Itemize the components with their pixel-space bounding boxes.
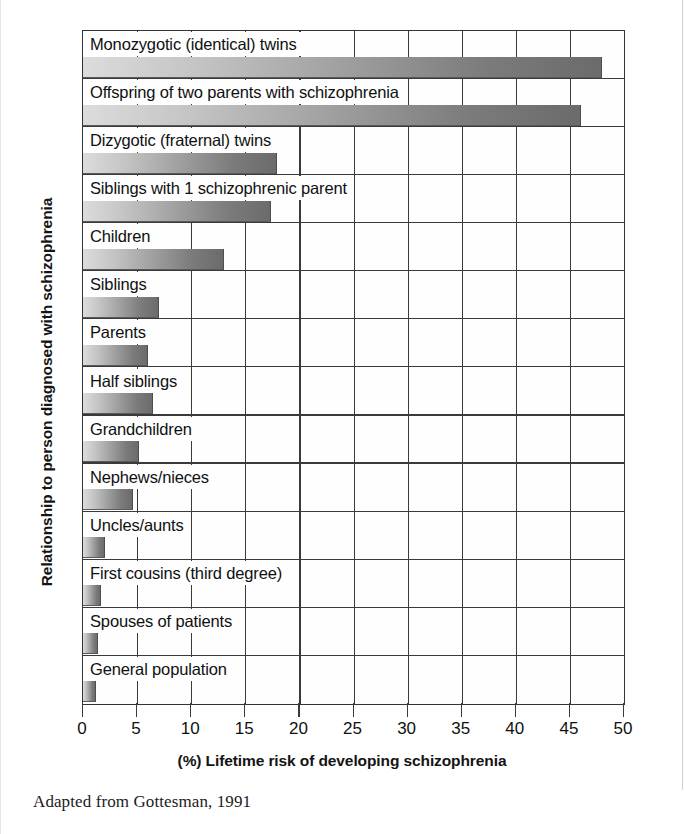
row-separator — [83, 462, 624, 463]
bar-row: Grandchildren — [83, 416, 624, 464]
category-label: Half siblings — [90, 369, 177, 394]
bar — [83, 681, 96, 702]
x-tick-mark — [353, 703, 354, 717]
x-axis: 05101520253035404550 — [82, 703, 623, 753]
category-label: Siblings with 1 schizophrenic parent — [90, 176, 347, 201]
row-separator — [83, 607, 624, 608]
row-separator — [83, 126, 624, 127]
row-separator — [83, 559, 624, 560]
x-tick-label: 25 — [333, 719, 373, 739]
y-axis-title: Relationship to person diagnosed with sc… — [38, 92, 56, 692]
bar — [83, 297, 159, 318]
x-tick-mark — [461, 703, 462, 717]
row-separator — [83, 414, 624, 415]
x-tick-label: 40 — [495, 719, 535, 739]
category-label: Children — [90, 224, 150, 249]
bar — [83, 585, 101, 606]
category-label: Uncles/aunts — [90, 513, 184, 538]
x-tick-mark — [407, 703, 408, 717]
x-axis-title: (%) Lifetime risk of developing schizoph… — [0, 752, 684, 770]
row-separator — [83, 174, 624, 175]
x-tick-label: 30 — [387, 719, 427, 739]
bar-row: General population — [83, 656, 624, 704]
bar — [83, 345, 148, 366]
row-separator — [83, 78, 624, 79]
bar-row: Siblings — [83, 271, 624, 319]
x-tick-mark — [82, 703, 83, 717]
x-tick-label: 20 — [278, 719, 318, 739]
category-label: Nephews/nieces — [90, 465, 209, 490]
bar-row: Spouses of patients — [83, 608, 624, 656]
bar-row: Half siblings — [83, 368, 624, 416]
bar — [83, 441, 139, 462]
bar-row: Nephews/nieces — [83, 464, 624, 512]
bar — [83, 57, 602, 78]
bar — [83, 633, 98, 654]
bar-row: Offspring of two parents with schizophre… — [83, 79, 624, 127]
x-tick-mark — [623, 703, 624, 717]
category-label: Monozygotic (identical) twins — [90, 32, 297, 57]
x-tick-label: 10 — [170, 719, 210, 739]
bar — [83, 393, 153, 414]
category-label: Dizygotic (fraternal) twins — [90, 128, 271, 153]
x-tick-mark — [190, 703, 191, 717]
row-separator — [83, 222, 624, 223]
x-tick-mark — [136, 703, 137, 717]
plot-area: Monozygotic (identical) twinsOffspring o… — [82, 30, 625, 705]
x-tick-mark — [515, 703, 516, 717]
bar-rows: Monozygotic (identical) twinsOffspring o… — [83, 31, 624, 704]
bar — [83, 489, 133, 510]
x-tick-label: 15 — [224, 719, 264, 739]
bar-row: Siblings with 1 schizophrenic parent — [83, 175, 624, 223]
bar-row: Uncles/aunts — [83, 512, 624, 560]
bar — [83, 201, 271, 222]
row-separator — [83, 655, 624, 656]
bar — [83, 537, 105, 558]
bar-chart-figure: Relationship to person diagnosed with sc… — [0, 0, 684, 834]
bar — [83, 153, 277, 174]
x-tick-mark — [298, 703, 299, 717]
category-label: Parents — [90, 320, 146, 345]
x-tick-mark — [569, 703, 570, 717]
category-label: Offspring of two parents with schizophre… — [90, 80, 399, 105]
category-label: Spouses of patients — [90, 609, 232, 634]
bar-row: Children — [83, 223, 624, 271]
bar — [83, 105, 581, 126]
bar-row: First cousins (third degree) — [83, 560, 624, 608]
bar-row: Monozygotic (identical) twins — [83, 31, 624, 79]
x-tick-mark — [244, 703, 245, 717]
bar — [83, 249, 224, 270]
row-separator — [83, 366, 624, 367]
bar-row: Dizygotic (fraternal) twins — [83, 127, 624, 175]
x-tick-label: 50 — [603, 719, 643, 739]
category-label: Siblings — [90, 272, 147, 297]
category-label: First cousins (third degree) — [90, 561, 282, 586]
source-note: Adapted from Gottesman, 1991 — [33, 792, 251, 812]
category-label: Grandchildren — [90, 417, 192, 442]
category-label: General population — [90, 657, 227, 682]
bar-row: Parents — [83, 319, 624, 367]
x-tick-label: 45 — [549, 719, 589, 739]
row-separator — [83, 511, 624, 512]
x-tick-label: 0 — [62, 719, 102, 739]
row-separator — [83, 318, 624, 319]
x-tick-label: 5 — [116, 719, 156, 739]
row-separator — [83, 270, 624, 271]
x-tick-label: 35 — [441, 719, 481, 739]
